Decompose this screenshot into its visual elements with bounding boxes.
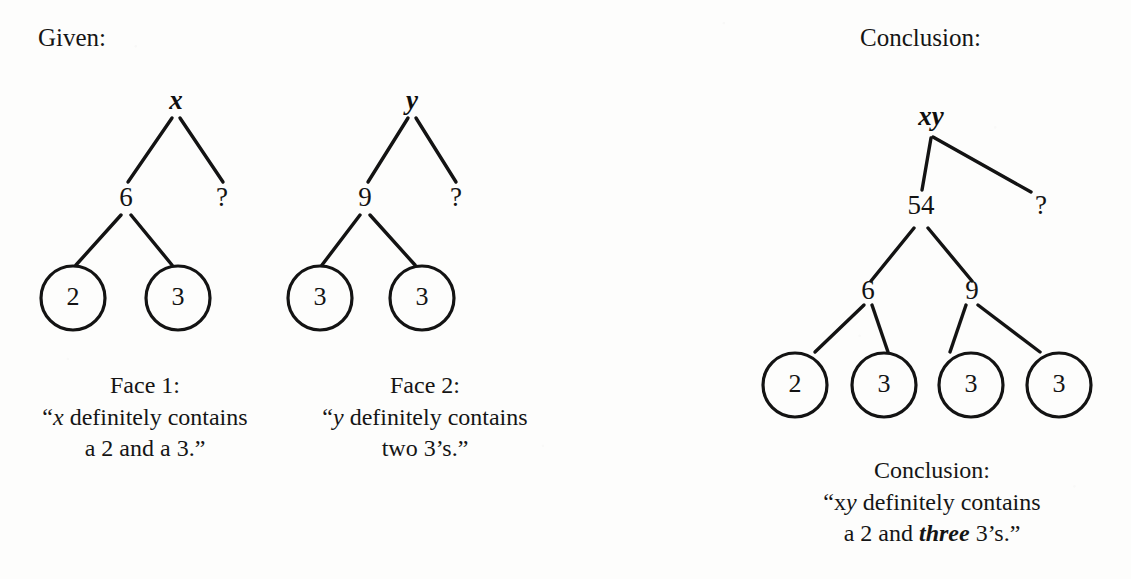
tree-y-node-unknown: ?: [450, 182, 462, 212]
tree-xy-leaf-3-a-label: 3: [878, 369, 891, 398]
tree-y-edges: [322, 118, 456, 265]
tree-xy-node-unknown: ?: [1035, 190, 1047, 220]
tree-x-leaf-3: 3: [146, 266, 210, 330]
tree-y-leaf-3-left-label: 3: [314, 282, 327, 311]
tree-xy-caption-line3: a 2 and three 3’s.”: [762, 518, 1102, 550]
tree-xy-leaf-3-a: 3: [852, 353, 916, 417]
tree-x-caption-line2: “x definitely contains: [0, 402, 290, 434]
tree-x-leaf-2: 2: [41, 266, 105, 330]
tree-xy-node-54: 54: [908, 190, 936, 220]
tree-xy-leaf-3-c-label: 3: [1053, 369, 1066, 398]
tree-xy-node-6: 6: [861, 275, 875, 305]
tree-y-node-9: 9: [358, 182, 372, 212]
tree-xy-caption: Conclusion: “xy definitely contains a 2 …: [762, 455, 1102, 550]
tree-xy-caption-line3-post: 3’s.”: [970, 520, 1021, 546]
tree-y-caption-quote: “: [322, 404, 333, 430]
tree-xy-node-9: 9: [965, 275, 979, 305]
tree-x-caption-line2-rest: definitely contains: [64, 404, 248, 430]
tree-xy-caption-line2-rest: definitely contains: [857, 489, 1041, 515]
tree-x-node-unknown: ?: [216, 182, 228, 212]
tree-x-caption: Face 1: “x definitely contains a 2 and a…: [0, 370, 290, 465]
tree-y-caption-line3: two 3’s.”: [280, 433, 570, 465]
tree-y-leaf-3-right: 3: [390, 266, 454, 330]
tree-x-caption-var: x: [53, 404, 64, 430]
tree-y-caption-line2: “y definitely contains: [280, 402, 570, 434]
tree-x-edges: [76, 118, 223, 265]
tree-x-caption-line1: Face 1:: [0, 370, 290, 402]
tree-y-root-label: y: [403, 85, 419, 115]
tree-xy-caption-emphasis: three: [919, 520, 970, 546]
tree-xy-caption-var-x: x: [834, 489, 846, 515]
tree-xy-root-label: xy: [917, 101, 945, 131]
tree-xy-leaf-3-b: 3: [939, 353, 1003, 417]
tree-xy-caption-var-y: y: [846, 489, 857, 515]
tree-xy-leaf-3-c: 3: [1027, 353, 1091, 417]
tree-y-caption-line1: Face 2:: [280, 370, 570, 402]
tree-x-leaf-3-label: 3: [172, 282, 185, 311]
tree-x-caption-line3: a 2 and a 3.”: [0, 433, 290, 465]
tree-xy-edges: [815, 137, 1040, 352]
tree-xy-leaf-2-label: 2: [789, 369, 802, 398]
tree-y-caption-var: y: [333, 404, 344, 430]
tree-xy-caption-line1: Conclusion:: [762, 455, 1102, 487]
tree-x-root-label: x: [168, 85, 183, 115]
tree-x-leaf-2-label: 2: [67, 282, 80, 311]
tree-x-caption-quote: “: [42, 404, 53, 430]
tree-y-leaf-3-left: 3: [288, 266, 352, 330]
tree-y-caption-line2-rest: definitely contains: [344, 404, 528, 430]
tree-y-caption: Face 2: “y definitely contains two 3’s.”: [280, 370, 570, 465]
tree-xy-caption-line2: “xy definitely contains: [762, 487, 1102, 519]
tree-xy-caption-line3-pre: a 2 and: [844, 520, 919, 546]
tree-xy-leaf-2: 2: [763, 353, 827, 417]
tree-xy-leaf-3-b-label: 3: [965, 369, 978, 398]
tree-x-node-6: 6: [119, 182, 133, 212]
tree-y-leaf-3-right-label: 3: [416, 282, 429, 311]
tree-xy-caption-quote: “: [823, 489, 834, 515]
factor-tree-diagram: Given: Conclusion: x 6 ? 2 3 y 9: [0, 0, 1131, 579]
